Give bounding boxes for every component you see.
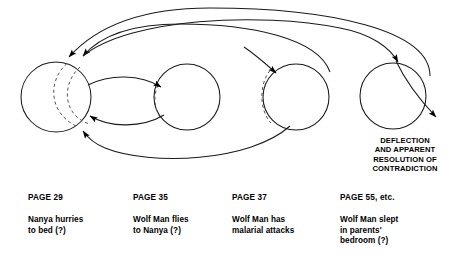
caption-block-page-37: PAGE 37 Wolf Man has malarial attacks [232,193,337,236]
caption-block-page-29: PAGE 29 Nanya hurries to bed (?) [28,193,128,236]
node-circle-page-37 [263,64,329,130]
dashed-arc-node-1-left [54,64,76,127]
caption-title-page-37: PAGE 37 [232,193,337,203]
edge-outer-return-to-page-29 [69,8,430,76]
diagram-root: DEFLECTION AND APPARENT RESOLUTION OF CO… [0,0,473,258]
node-circle-page-55 [360,63,426,129]
edge-page-35-to-page-37 [244,47,276,73]
caption-block-page-55: PAGE 55, etc. Wolf Man slept in parents'… [340,193,450,247]
edge-inner-return-to-page-29 [83,24,330,72]
edge-page-29-to-page-55 [83,20,398,62]
annotation-deflection-text: DEFLECTION AND APPARENT RESOLUTION OF CO… [345,136,465,174]
dashed-arc-node-2 [155,85,161,119]
edge-page-29-to-page-35 [88,77,161,87]
caption-body-page-35: Wolf Man flies to Nanya (?) [133,215,233,236]
dashed-arc-node-1-right [67,67,88,124]
caption-body-page-29: Nanya hurries to bed (?) [28,215,128,236]
caption-title-page-55: PAGE 55, etc. [340,193,450,203]
edge-page-55-deflection-out [396,61,436,117]
edge-page-37-to-page-29 [83,126,290,158]
edge-page-35-to-page-29 [90,115,164,125]
caption-body-page-55: Wolf Man slept in parents' bedroom (?) [340,215,450,247]
caption-body-page-37: Wolf Man has malarial attacks [232,215,337,236]
caption-title-page-29: PAGE 29 [28,193,128,203]
node-circle-page-35 [154,64,220,130]
caption-block-page-35: PAGE 35 Wolf Man flies to Nanya (?) [133,193,233,236]
caption-title-page-35: PAGE 35 [133,193,233,203]
node-circle-page-29 [21,62,91,132]
